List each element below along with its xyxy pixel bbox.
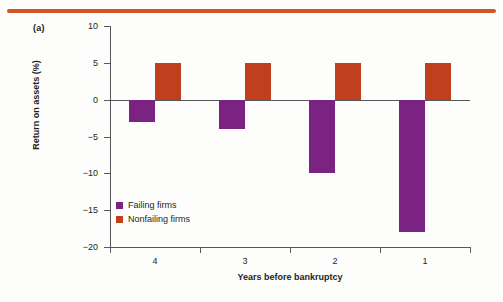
x-tick-mark [290, 247, 291, 253]
bar-nonfailing-firms-year-2 [335, 63, 361, 100]
legend-swatch-icon [116, 216, 123, 223]
y-tick-label: −5 [0, 132, 98, 142]
x-tick-label: 2 [305, 256, 365, 266]
y-tick-label: −10 [0, 168, 98, 178]
y-tick-label: 5 [0, 58, 98, 68]
bar-nonfailing-firms-year-3 [245, 63, 271, 100]
legend-item: Failing firms [116, 198, 190, 212]
legend-swatch-icon [116, 202, 123, 209]
y-tick-mark [104, 137, 110, 138]
bar-failing-firms-year-2 [309, 100, 335, 174]
x-tick-label: 4 [125, 256, 185, 266]
legend-label: Nonfailing firms [128, 214, 190, 224]
y-tick-label: −15 [0, 205, 98, 215]
y-tick-label: 10 [0, 21, 98, 31]
y-axis-title: Return on assets (%) [31, 25, 41, 185]
y-tick-mark [104, 210, 110, 211]
bar-failing-firms-year-4 [129, 100, 155, 122]
bar-chart-plot: 1050−5−10−15−20 4321 Return on assets (%… [0, 0, 503, 302]
y-axis-line [110, 26, 111, 248]
x-tick-label: 3 [215, 256, 275, 266]
x-tick-label: 1 [395, 256, 455, 266]
x-tick-mark [470, 247, 471, 253]
x-tick-mark [110, 247, 111, 253]
x-tick-mark [380, 247, 381, 253]
bar-nonfailing-firms-year-4 [155, 63, 181, 100]
y-tick-mark [104, 26, 110, 27]
bar-nonfailing-firms-year-1 [425, 63, 451, 100]
y-tick-label: −20 [0, 242, 98, 252]
y-tick-label: 0 [0, 95, 98, 105]
y-tick-mark [104, 100, 110, 101]
bar-failing-firms-year-3 [219, 100, 245, 129]
x-axis-title: Years before bankruptcy [110, 272, 470, 282]
bar-failing-firms-year-1 [399, 100, 425, 233]
y-tick-mark [104, 173, 110, 174]
y-tick-mark [104, 63, 110, 64]
x-tick-mark [200, 247, 201, 253]
figure-panel: (a) 1050−5−10−15−20 4321 Return on asset… [0, 0, 503, 302]
legend-label: Failing firms [128, 200, 177, 210]
legend: Failing firmsNonfailing firms [116, 198, 190, 226]
legend-item: Nonfailing firms [116, 212, 190, 226]
